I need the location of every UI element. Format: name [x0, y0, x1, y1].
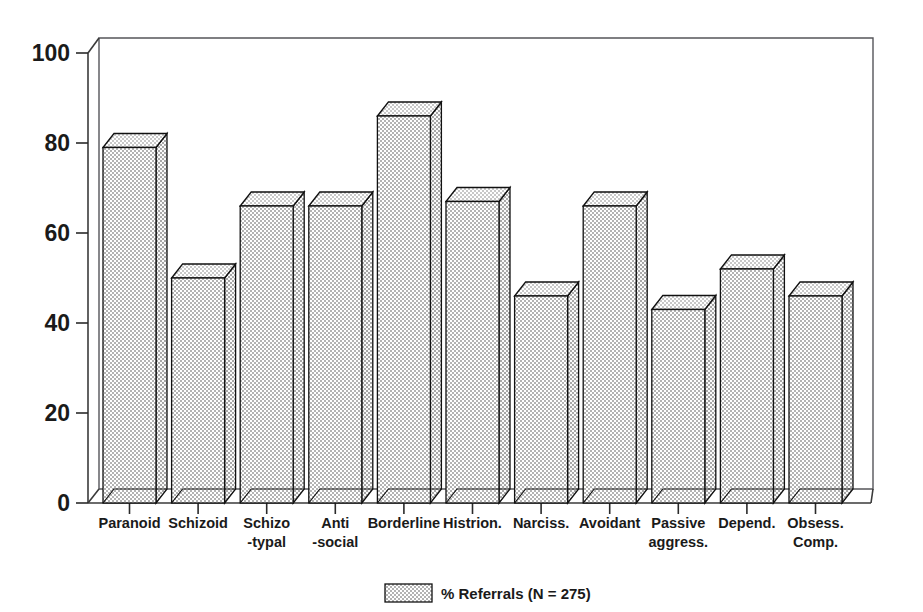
- legend-swatch: [385, 584, 432, 602]
- bar-front-face: [789, 296, 842, 503]
- x-category-label: Comp.: [793, 534, 838, 550]
- bar-top-face: [172, 264, 236, 278]
- chart-canvas: 020406080100 ParanoidSchizoidSchizo-typa…: [0, 0, 923, 612]
- x-category-label: Borderline: [368, 515, 441, 531]
- x-category-label: -typal: [247, 534, 286, 550]
- y-tick-label: 100: [32, 40, 70, 66]
- y-tick-label: 60: [44, 220, 70, 246]
- bar-column: [309, 192, 373, 503]
- x-category-label: Obsess.: [787, 515, 843, 531]
- bar-front-face: [172, 278, 225, 503]
- bar-top-face: [583, 192, 647, 206]
- bar-side-face: [156, 134, 167, 504]
- bar-series: [103, 102, 853, 503]
- bar-front-face: [515, 296, 568, 503]
- bar-front-face: [309, 206, 362, 503]
- x-category-label: Depend.: [718, 515, 775, 531]
- bar-column: [172, 264, 236, 503]
- x-category-label: Schizoid: [168, 515, 228, 531]
- bar-top-face: [789, 282, 853, 296]
- bar-top-face: [377, 102, 441, 116]
- bar-top-face: [720, 255, 784, 269]
- bar-top-face: [446, 188, 510, 202]
- x-category-label: Schizo: [243, 515, 290, 531]
- bar-side-face: [499, 188, 510, 504]
- bar-front-face: [103, 148, 156, 504]
- bar-front-face: [652, 310, 705, 504]
- x-category-label: Passive: [651, 515, 705, 531]
- y-tick-label: 40: [44, 310, 70, 336]
- bar-top-face: [652, 296, 716, 310]
- bar-top-face: [515, 282, 579, 296]
- y-tick-label: 0: [57, 490, 70, 516]
- bar-side-face: [362, 192, 373, 503]
- bar-top-face: [103, 134, 167, 148]
- bar-top-face: [309, 192, 373, 206]
- x-category-label: Anti: [321, 515, 349, 531]
- bar-front-face: [583, 206, 636, 503]
- bar-chart-figure: 020406080100 ParanoidSchizoidSchizo-typa…: [0, 0, 923, 612]
- y-axis: [88, 38, 99, 503]
- x-axis-ticks: [130, 503, 816, 514]
- bar-front-face: [240, 206, 293, 503]
- bar-front-face: [377, 116, 430, 503]
- x-category-label: Avoidant: [579, 515, 641, 531]
- bar-column: [103, 134, 167, 504]
- bar-column: [789, 282, 853, 503]
- bar-side-face: [568, 282, 579, 503]
- bar-column: [377, 102, 441, 503]
- legend-label: % Referrals (N = 275): [441, 585, 591, 602]
- bar-side-face: [773, 255, 784, 503]
- y-axis-ticks: 020406080100: [32, 40, 88, 516]
- bar-column: [515, 282, 579, 503]
- x-axis-labels: ParanoidSchizoidSchizo-typalAnti-socialB…: [98, 515, 843, 550]
- chart-legend: % Referrals (N = 275): [385, 584, 591, 602]
- bar-front-face: [720, 269, 773, 503]
- x-category-label: Paranoid: [98, 515, 160, 531]
- bar-side-face: [636, 192, 647, 503]
- bar-side-face: [842, 282, 853, 503]
- bar-side-face: [293, 192, 304, 503]
- bar-front-face: [446, 202, 499, 504]
- bar-column: [446, 188, 510, 504]
- bar-column: [583, 192, 647, 503]
- x-category-label: -social: [312, 534, 358, 550]
- bar-top-face: [240, 192, 304, 206]
- x-category-label: Narciss.: [513, 515, 569, 531]
- bar-side-face: [705, 296, 716, 504]
- bar-column: [720, 255, 784, 503]
- bar-column: [240, 192, 304, 503]
- x-category-label: aggress.: [648, 534, 708, 550]
- y-tick-label: 80: [44, 130, 70, 156]
- bar-side-face: [430, 102, 441, 503]
- bar-column: [652, 296, 716, 504]
- bar-side-face: [225, 264, 236, 503]
- y-tick-label: 20: [44, 400, 70, 426]
- x-category-label: Histrion.: [443, 515, 502, 531]
